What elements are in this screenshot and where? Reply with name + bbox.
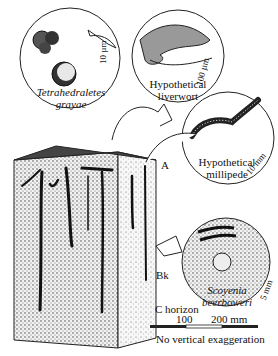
scale-tick-100: 100 <box>176 313 193 325</box>
horizon-a-label: A <box>161 159 169 171</box>
burrow-name: Scoyenia beerboweri <box>192 284 262 308</box>
spore-scale: 10 µm <box>98 41 108 64</box>
scale-tick-200: 200 mm <box>211 313 247 325</box>
scale-bar <box>150 325 258 328</box>
horizon-bk-label: Bk <box>156 269 169 281</box>
spore-name: Tetrahedraletes grayae <box>34 86 108 110</box>
soil-block <box>14 146 160 348</box>
scale-note: No vertical exaggeration <box>156 333 265 345</box>
